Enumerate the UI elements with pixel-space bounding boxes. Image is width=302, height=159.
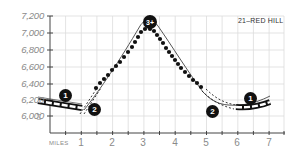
grid [50,16,284,133]
y-axis-label: FT. [36,112,42,120]
x-tick-3: 3 [137,137,149,148]
y-tick-6800: 6,800 [0,44,44,55]
x-tick-7: 7 [263,137,275,148]
dotted-trail [94,27,203,90]
y-tick-6600: 6,600 [0,61,44,72]
x-tick-5: 5 [200,137,212,148]
segment-marker-2-left: 2 [88,103,101,116]
y-tick-7200: 7,200 [0,10,44,21]
segment-marker-1-left: 1 [59,89,72,102]
y-tick-6400: 6,400 [0,78,44,89]
x-axis-label: MILES [49,140,69,146]
x-tick-4: 4 [169,137,181,148]
segment-marker-3-peak: 3+ [143,15,157,29]
y-tick-7000: 7,000 [0,27,44,38]
segment-marker-1-right: 1 [244,92,257,105]
segment-marker-2-right: 2 [206,105,219,118]
x-tick-1: 1 [75,137,87,148]
axes [47,16,285,135]
x-tick-6: 6 [231,137,243,148]
x-tick-2: 2 [106,137,118,148]
chart-title: 21–RED HILL [238,17,283,24]
y-tick-6200: 6,200 [0,94,44,105]
